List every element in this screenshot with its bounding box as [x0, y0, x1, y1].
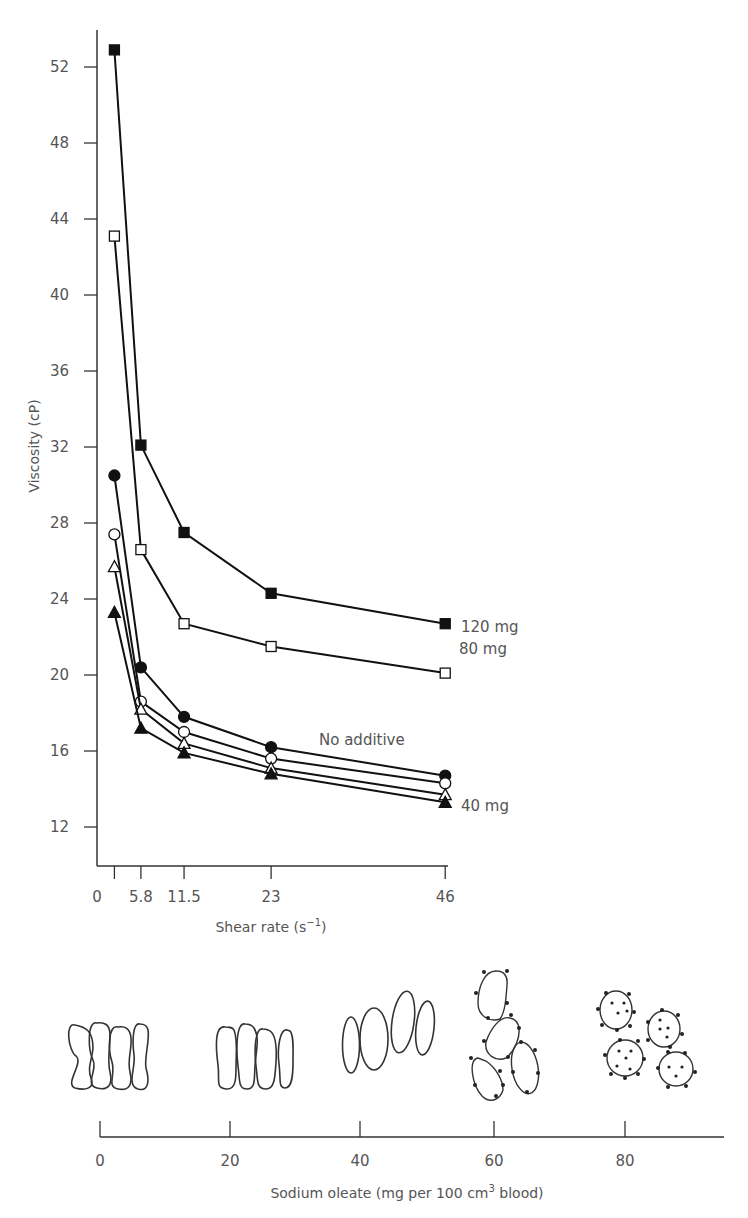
y-ticks: 5248444036322824201612 [50, 58, 97, 836]
scale-tick-label: 0 [95, 1152, 105, 1170]
y-tick-label: 12 [50, 818, 69, 836]
x-tick-label: 0 [92, 888, 102, 906]
x-tick-label: 11.5 [167, 888, 200, 906]
y-tick-label: 24 [50, 590, 69, 608]
y-axis-title: Viscosity (cP) [26, 399, 42, 492]
open-square-marker-icon [179, 619, 189, 629]
series-layer [108, 45, 451, 807]
filled-square-marker-icon [136, 440, 146, 450]
open-square-marker-icon [109, 231, 119, 241]
label-40mg: 40 mg [461, 797, 509, 815]
x-axis-title: Shear rate (s−1) [215, 917, 326, 935]
concentration-scale: 020406080 [95, 1121, 724, 1170]
filled-square-marker-icon [440, 619, 450, 629]
x-ticks: 05.811.52346 [92, 866, 455, 906]
filled-circle-marker-icon [179, 711, 190, 722]
y-tick-label: 52 [50, 58, 69, 76]
chart-canvas: 5248444036322824201612 05.811.52346 Visc… [0, 0, 748, 1218]
open-square-marker-icon [440, 668, 450, 678]
y-tick-label: 32 [50, 438, 69, 456]
filled-triangle-marker-icon [108, 606, 120, 617]
filled-square-marker-icon [109, 45, 119, 55]
series-60-mg [108, 561, 451, 800]
label-120mg: 120 mg [461, 618, 519, 636]
scale-title: Sodium oleate (mg per 100 cm3 blood) [270, 1183, 543, 1201]
series-20-mg [109, 529, 451, 789]
open-square-marker-icon [136, 545, 146, 555]
cells-20mg [216, 1024, 293, 1089]
scale-tick-label: 20 [220, 1152, 239, 1170]
cells-60mg [469, 969, 542, 1100]
filled-square-marker-icon [179, 528, 189, 538]
open-circle-marker-icon [109, 529, 120, 540]
cells-40mg [343, 990, 437, 1073]
y-tick-label: 40 [50, 286, 69, 304]
cells-0mg [69, 1023, 149, 1090]
x-tick-label: 23 [262, 888, 281, 906]
filled-square-marker-icon [266, 588, 276, 598]
open-circle-marker-icon [179, 727, 190, 738]
scale-tick-label: 80 [615, 1152, 634, 1170]
y-tick-label: 44 [50, 210, 69, 228]
open-square-marker-icon [266, 642, 276, 652]
series-120-mg [109, 45, 450, 629]
scale-tick-label: 60 [484, 1152, 503, 1170]
y-tick-label: 20 [50, 666, 69, 684]
filled-circle-marker-icon [266, 742, 277, 753]
cells-80mg [596, 991, 697, 1089]
y-tick-label: 36 [50, 362, 69, 380]
series-80-mg [109, 231, 450, 678]
y-tick-label: 28 [50, 514, 69, 532]
filled-triangle-marker-icon [135, 722, 147, 733]
label-no-additive: No additive [319, 731, 405, 749]
y-tick-label: 16 [50, 742, 69, 760]
filled-circle-marker-icon [109, 470, 120, 481]
x-tick-label: 5.8 [129, 888, 153, 906]
scale-tick-label: 40 [350, 1152, 369, 1170]
label-80mg: 80 mg [459, 640, 507, 658]
open-circle-marker-icon [440, 778, 451, 789]
y-tick-label: 48 [50, 134, 69, 152]
x-tick-label: 46 [436, 888, 455, 906]
